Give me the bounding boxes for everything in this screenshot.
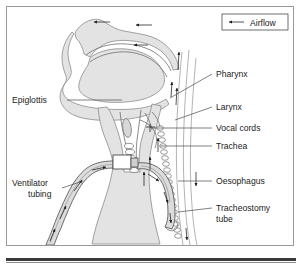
leader-pharynx: [170, 74, 212, 98]
label-vocal-cords: Vocal cords: [216, 123, 260, 133]
bottom-rule: [6, 258, 296, 261]
epiglottis-shape: [122, 118, 133, 138]
label-epiglottis: Epiglottis: [12, 95, 47, 105]
label-oesophagus: Oesophagus: [216, 176, 265, 186]
bottom-rule-thin: [6, 262, 296, 263]
label-ventilator-tubing-line2: tubing: [28, 189, 52, 199]
label-tracheostomy-tube-line2: tube: [216, 214, 233, 224]
legend: Airflow: [222, 14, 288, 30]
label-larynx: Larynx: [216, 102, 242, 112]
posterior-wall: [176, 50, 197, 245]
label-pharynx: Pharynx: [216, 69, 248, 79]
head-profile: [60, 19, 179, 120]
anatomy-diagram: Airflow Epiglottis Ventilator tubing Pha…: [0, 0, 302, 267]
label-tracheostomy-tube-line1: Tracheostomy: [216, 203, 271, 213]
legend-label: Airflow: [250, 18, 277, 28]
label-ventilator-tubing-line1: Ventilator: [12, 178, 48, 188]
leader-larynx: [175, 107, 212, 120]
leader-tracheostomy-tube: [178, 208, 212, 212]
label-trachea: Trachea: [216, 141, 247, 151]
figure-root: Airflow Epiglottis Ventilator tubing Pha…: [0, 0, 302, 267]
